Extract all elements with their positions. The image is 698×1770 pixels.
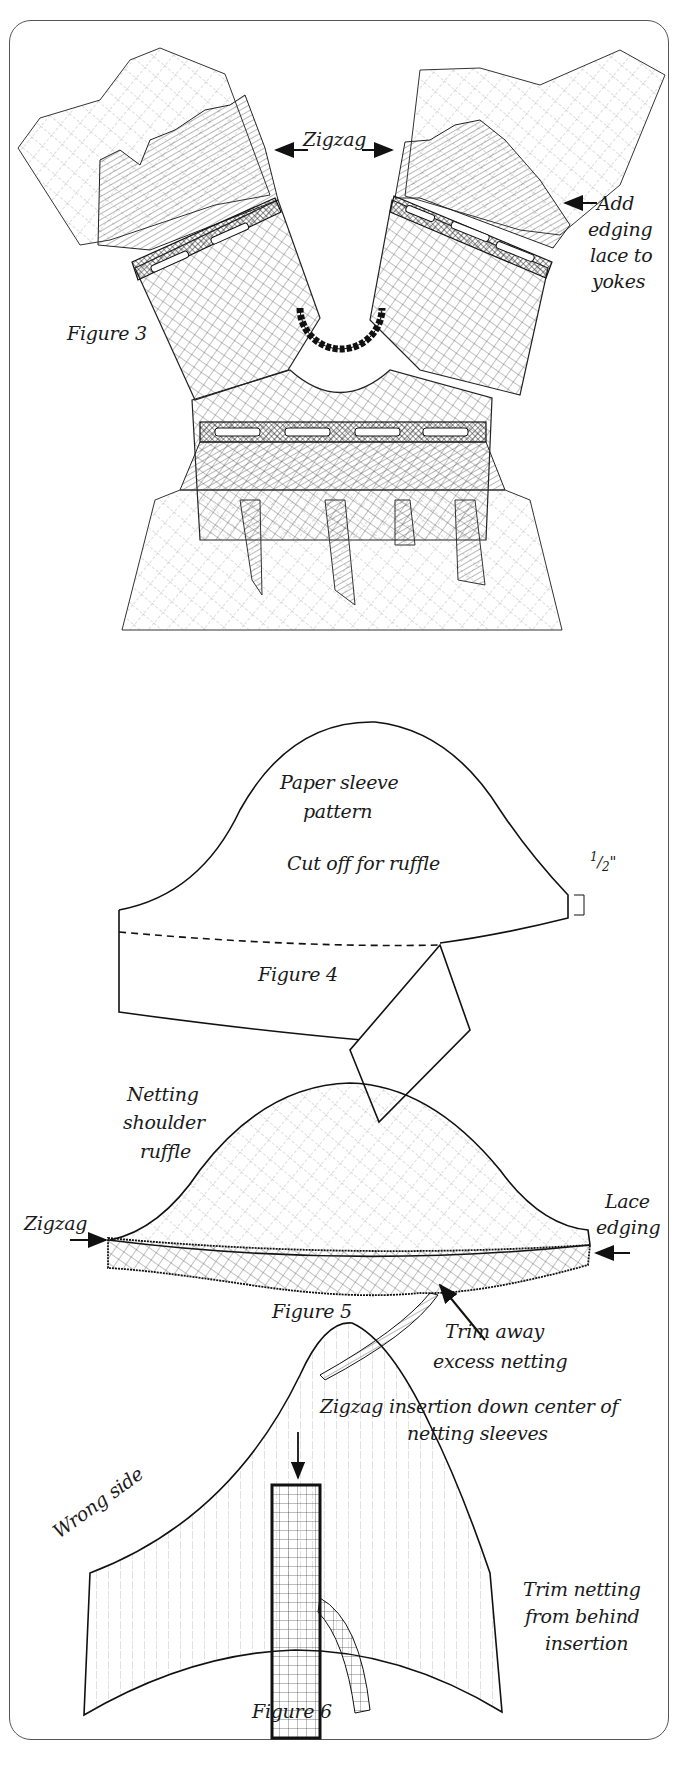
fig4-half-inch-measure: 1/2" xyxy=(590,846,616,879)
fig4-pattern-line1: Paper sleeve xyxy=(280,771,398,794)
fig3-edging-line1: Add xyxy=(597,192,634,215)
fraction-numerator: 1 xyxy=(590,850,597,864)
fig6-insertion-line2: netting sleeves xyxy=(407,1422,548,1445)
fig3-edging-line4: yokes xyxy=(592,270,645,293)
fig4-pattern-line2: pattern xyxy=(303,800,372,823)
inch-mark: " xyxy=(609,853,616,871)
figure-4-caption: Figure 4 xyxy=(258,963,338,986)
figure-5-caption: Figure 5 xyxy=(272,1300,352,1323)
fig5-trim-line2: excess netting xyxy=(433,1350,567,1373)
fig5-lace-line1: Lace xyxy=(605,1190,650,1213)
fig4-cut-label: Cut off for ruffle xyxy=(287,852,440,875)
figure-3-caption: Figure 3 xyxy=(67,322,147,345)
fig5-zigzag-label: Zigzag xyxy=(24,1212,87,1235)
fig3-edging-line2: edging xyxy=(588,218,652,241)
fig5-ruffle-line2: shoulder xyxy=(123,1111,205,1134)
fig6-trim-line2: from behind xyxy=(525,1605,639,1628)
fig5-ruffle-line1: Netting xyxy=(127,1083,199,1106)
figure-6-drawing xyxy=(84,1323,502,1738)
fig6-insertion-line1: Zigzag insertion down center of xyxy=(320,1395,618,1418)
figure-6-caption: Figure 6 xyxy=(252,1700,332,1723)
fig6-trim-line3: insertion xyxy=(545,1632,628,1655)
fig5-lace-line2: edging xyxy=(596,1216,660,1239)
fig5-ruffle-line3: ruffle xyxy=(140,1140,191,1163)
fig3-edging-line3: lace to xyxy=(590,244,652,267)
fig3-zigzag-label: Zigzag xyxy=(303,128,366,151)
fig5-trim-line1: Trim away xyxy=(445,1320,544,1343)
fig6-trim-line1: Trim netting xyxy=(523,1578,641,1601)
